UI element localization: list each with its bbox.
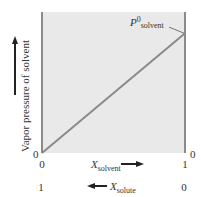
x-solute-sub: solute xyxy=(117,186,137,195)
left-arrow-head-icon xyxy=(87,183,95,189)
x-solvent-sub: solvent xyxy=(98,164,122,173)
x-tick-solute-1: 1 xyxy=(38,181,44,193)
x-tick-solute-0: 0 xyxy=(181,181,187,193)
x-tick-solvent-0: 0 xyxy=(39,158,45,170)
annotation-sub: solvent xyxy=(141,21,165,30)
x-solute-label: Xsolute xyxy=(109,180,136,195)
vapor-pressure-chart: P0solvent Vapor pressure of solvent 0 0 … xyxy=(0,0,201,197)
y-tick-left-0: 0 xyxy=(33,148,39,160)
plot-area xyxy=(42,12,185,153)
right-arrow-head-icon xyxy=(136,161,144,167)
up-arrow-head-icon xyxy=(12,36,18,44)
y-tick-right-0: 0 xyxy=(190,148,196,160)
x-solvent-label: Xsolvent xyxy=(90,158,122,173)
y-axis-label: Vapor pressure of solvent xyxy=(19,40,31,152)
x-tick-solvent-1: 1 xyxy=(182,158,188,170)
